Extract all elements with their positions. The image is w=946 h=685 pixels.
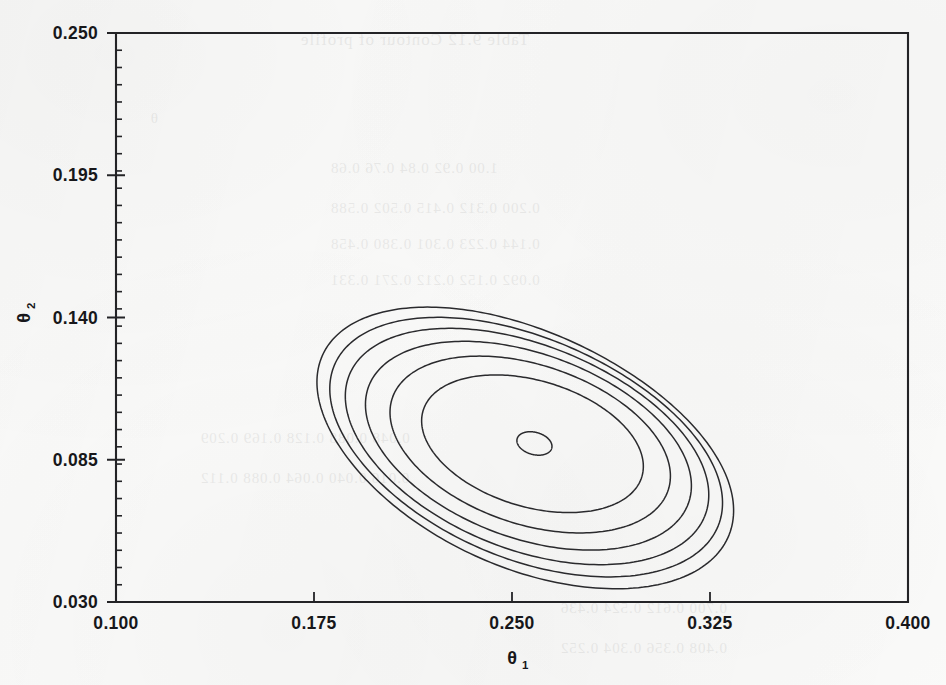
- x-axis-tick-label: 0.250: [489, 613, 534, 633]
- x-axis-title-symbol: θ: [507, 648, 517, 668]
- plot-frame: [116, 33, 908, 602]
- y-axis-tick-label: 0.195: [53, 165, 98, 185]
- x-axis-title: θ 1: [507, 648, 529, 671]
- x-axis-tick-label: 0.325: [687, 613, 732, 633]
- contour-level-5: [345, 328, 708, 564]
- scanned-page: Table 9.12 Contour of profileθ1.00 0.92 …: [0, 0, 946, 685]
- x-axis-tick-label: 0.175: [291, 613, 336, 633]
- x-axis-title-subscript: 1: [522, 659, 529, 671]
- y-axis-title-subscript: 2: [25, 303, 37, 309]
- contour-level-6: [330, 317, 723, 577]
- y-axis-title: θ 2: [14, 303, 37, 323]
- plot-frame-border: [116, 33, 908, 602]
- contour-level-1: [517, 432, 552, 455]
- x-axis-tick-label-group: 0.1000.1750.2500.3250.400: [93, 613, 930, 633]
- x-axis-tick-label: 0.100: [93, 613, 138, 633]
- contour-level-group: [317, 307, 734, 589]
- y-axis-tick-label: 0.140: [53, 308, 98, 328]
- x-axis-tick-group: [116, 592, 908, 602]
- contour-plot-figure: 0.1000.1750.2500.3250.400 0.2500.1950.14…: [0, 0, 946, 685]
- x-axis-tick-label: 0.400: [885, 613, 930, 633]
- y-axis-tick-label: 0.085: [53, 450, 98, 470]
- contour-level-3: [390, 356, 670, 533]
- y-axis-tick-label: 0.250: [53, 23, 98, 43]
- y-axis-tick-label: 0.030: [53, 592, 98, 612]
- y-axis-title-symbol: θ: [14, 313, 34, 323]
- y-axis-tick-label-group: 0.2500.1950.1400.0850.030: [53, 23, 98, 612]
